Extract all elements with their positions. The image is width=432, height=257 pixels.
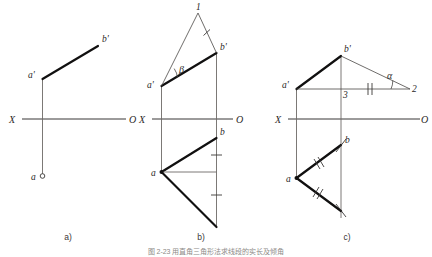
panel-c-hypotenuse-b-prime-to-2 [341,56,410,89]
panel-a-label-a: a [31,172,36,182]
panel-c: X O a' b' 2 3 α a b c) [274,44,428,242]
panel-c-caption: c) [343,232,350,242]
descriptive-geometry-figure: X O a' b' a a) [0,0,432,257]
panel-c-label-point-three: 3 [342,90,348,100]
panel-b-label-b: b [220,127,225,137]
panel-a-label-b-prime: b' [102,34,110,44]
panel-c-axis-label-o: O [421,114,428,125]
panel-b-axis-label-o: O [236,114,243,125]
panel-c-label-point-two: 2 [412,84,417,94]
panel-a: X O a' b' a a) [8,34,136,242]
panel-b-label-a: a [151,168,156,178]
panel-b-point-a-marker [160,170,164,174]
panel-c-label-alpha: α [387,70,393,81]
panel-c-segment-ab-frontal [297,56,342,89]
figure-caption: 图 2-23 用直角三角形法求线段的实长及倾角 [148,247,285,256]
panel-c-label-a-prime: a' [282,80,290,90]
panel-b-leg-1-to-b-prime [198,13,217,53]
panel-b-label-a-prime: a' [147,80,155,90]
panel-c-label-b: b [345,135,350,145]
panel-b-axis-label-x: X [138,114,146,125]
panel-c-point-a-marker [295,176,299,180]
panel-c-segment-ab-horizontal [297,145,342,178]
panel-a-axis-label-o: O [129,114,136,125]
panel-b-label-beta: β [178,64,184,75]
panel-c-segment-a-to-rotated-point [297,178,342,211]
panel-b-segment-ab-horizontal [162,138,217,172]
figure-container: X O a' b' a a) [0,0,432,257]
panel-b-label-b-prime: b' [220,42,228,52]
panel-b-tick-segment-1-b-prime [204,30,211,36]
panel-b-caption: b) [197,232,205,242]
panel-a-label-a-prime: a' [28,70,36,80]
panel-b-segment-a-to-rotated-point [162,172,217,227]
panel-c-alpha-angle-arc [391,81,393,90]
panel-b-label-point-one: 1 [196,2,201,12]
panel-a-point-a-marker [40,174,45,179]
panel-c-axis-label-x: X [274,114,282,125]
panel-a-segment-ab-frontal [43,46,99,79]
panel-c-label-b-prime: b' [344,44,352,54]
panel-c-label-a: a [286,174,291,184]
panel-b: X O 1 a' b' β a b b) [138,2,243,242]
panel-a-caption: a) [64,232,72,242]
panel-a-axis-label-x: X [8,114,16,125]
